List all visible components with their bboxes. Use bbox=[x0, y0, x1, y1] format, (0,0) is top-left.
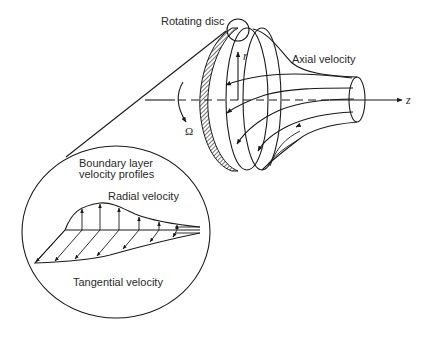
rotating-disc-label: Rotating disc bbox=[161, 15, 225, 27]
rotating-disc-diagram: Rotating disc Axial velocity r z Ω Bound… bbox=[0, 0, 431, 346]
rotation-arrow-icon bbox=[178, 82, 186, 122]
radial-velocity-label: Radial velocity bbox=[108, 190, 179, 202]
z-axis-label: z bbox=[405, 93, 411, 107]
tangential-velocity-profile bbox=[35, 230, 200, 263]
streamlines bbox=[226, 74, 354, 166]
radial-velocity-profile bbox=[65, 203, 200, 230]
axial-velocity-label: Axial velocity bbox=[292, 53, 356, 65]
omega-label: Ω bbox=[185, 125, 193, 137]
r-axis-label: r bbox=[243, 49, 248, 63]
tangential-velocity-label: Tangential velocity bbox=[73, 276, 163, 288]
tangential-velocity-arrows bbox=[36, 230, 177, 262]
boundary-layer-label-line2: velocity profiles bbox=[79, 168, 155, 180]
radial-velocity-arrows bbox=[82, 204, 177, 230]
